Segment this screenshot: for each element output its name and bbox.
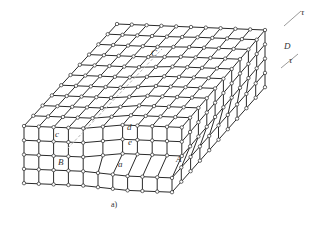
label-B: B (58, 158, 64, 167)
label-c: c (55, 130, 59, 139)
label-e: e (128, 138, 132, 147)
crystal-lattice (0, 0, 326, 229)
figure-caption: a) (111, 201, 117, 209)
shear-arrow-top (284, 11, 301, 26)
screw-dislocation-diagram: c d e B a A C D τ τ a) (0, 0, 326, 229)
lattice-atoms (22, 22, 266, 194)
label-C: C (151, 49, 157, 58)
label-A: A (176, 155, 182, 164)
label-tau-top: τ (301, 8, 304, 17)
label-tau-bottom: τ (289, 56, 292, 65)
label-D: D (284, 42, 291, 51)
label-d: d (127, 123, 132, 132)
label-a: a (118, 160, 123, 169)
